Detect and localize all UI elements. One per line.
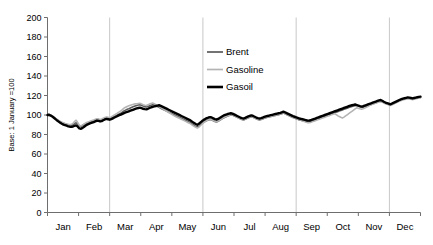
y-tick-label-160: 160 bbox=[26, 52, 41, 62]
x-axis-label-jun: Jun bbox=[211, 221, 226, 232]
price-index-line-chart: 020406080100120140160180200 JanFebMarApr… bbox=[0, 0, 433, 245]
x-axis-label-dec: Dec bbox=[397, 221, 414, 232]
series-line-brent bbox=[48, 97, 421, 127]
y-axis-tick-labels: 020406080100120140160180200 bbox=[26, 13, 41, 218]
series-line-gasoil bbox=[48, 97, 421, 129]
x-axis-label-jul: Jul bbox=[243, 221, 255, 232]
x-axis-label-sep: Sep bbox=[303, 221, 320, 232]
y-tick-label-60: 60 bbox=[31, 149, 41, 159]
x-axis-label-feb: Feb bbox=[86, 221, 102, 232]
data-series-group bbox=[48, 97, 421, 129]
x-axis-label-aug: Aug bbox=[272, 221, 289, 232]
x-axis-label-oct: Oct bbox=[335, 221, 350, 232]
x-axis-label-may: May bbox=[178, 221, 196, 232]
y-tick-label-200: 200 bbox=[26, 13, 41, 23]
chart-canvas: 020406080100120140160180200 JanFebMarApr… bbox=[0, 0, 433, 245]
y-axis-title-group: Base: 1 January =100 bbox=[7, 78, 16, 151]
y-tick-label-0: 0 bbox=[36, 208, 41, 218]
x-axis-label-jan: Jan bbox=[55, 221, 70, 232]
y-tick-label-180: 180 bbox=[26, 32, 41, 42]
x-axis-label-apr: Apr bbox=[149, 221, 164, 232]
x-axis-month-labels: JanFebMarAprMayJunJulAugSepOctNovDec bbox=[55, 221, 413, 232]
chart-legend: BrentGasolineGasoil bbox=[207, 46, 264, 92]
legend-label-gasoline: Gasoline bbox=[226, 64, 264, 75]
legend-label-gasoil: Gasoil bbox=[226, 81, 253, 92]
y-tick-label-40: 40 bbox=[31, 169, 41, 179]
y-tick-label-20: 20 bbox=[31, 188, 41, 198]
y-tick-label-100: 100 bbox=[26, 110, 41, 120]
y-tick-label-80: 80 bbox=[31, 130, 41, 140]
y-axis-title: Base: 1 January =100 bbox=[7, 78, 16, 151]
series-line-gasoline bbox=[48, 98, 421, 128]
legend-label-brent: Brent bbox=[226, 46, 249, 57]
x-axis-label-mar: Mar bbox=[117, 221, 133, 232]
y-tick-label-140: 140 bbox=[26, 71, 41, 81]
x-axis-label-nov: Nov bbox=[365, 221, 382, 232]
y-tick-label-120: 120 bbox=[26, 91, 41, 101]
